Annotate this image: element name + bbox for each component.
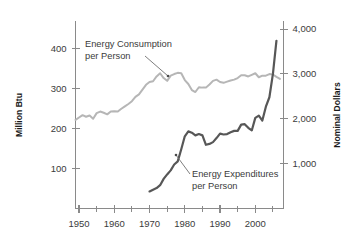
right-tick-label: 3,000 — [293, 68, 317, 79]
consumption-label-leader-dot — [167, 75, 170, 78]
expenditures-label-leader — [176, 155, 190, 174]
expenditures-label-text: per Person — [192, 181, 237, 191]
chart-container: 100200300400 1,0002,0003,0004,000 195019… — [0, 0, 359, 241]
expenditures-label-leader-dot — [175, 154, 178, 157]
annotations-group: Energy Consumptionper PersonEnergy Expen… — [85, 39, 279, 191]
left-tick-label: 200 — [51, 123, 67, 134]
x-tick-label: 1970 — [139, 218, 160, 229]
left-tick-label: 400 — [51, 43, 67, 54]
right-axis-ticks: 1,0002,0003,0004,000 — [280, 23, 317, 169]
consumption-label-text: per Person — [85, 51, 130, 61]
left-axis-title: Million Btu — [14, 93, 24, 137]
right-tick-label: 4,000 — [293, 23, 317, 34]
left-tick-label: 300 — [51, 83, 67, 94]
x-tick-label: 1950 — [68, 218, 89, 229]
x-tick-label: 2000 — [245, 218, 266, 229]
left-tick-label: 100 — [51, 163, 67, 174]
consumption-label-text: Energy Consumption — [85, 39, 172, 49]
expenditures-label-text: Energy Expenditures — [192, 169, 279, 179]
right-axis-title: Nominal Dollars — [332, 82, 342, 148]
x-tick-label: 1980 — [174, 218, 195, 229]
right-tick-label: 1,000 — [293, 158, 317, 169]
energy-chart: 100200300400 1,0002,0003,0004,000 195019… — [0, 0, 359, 241]
x-tick-label: 1960 — [104, 218, 125, 229]
series-line-consumption — [76, 73, 280, 120]
right-tick-label: 2,000 — [293, 113, 317, 124]
x-tick-label: 1990 — [209, 218, 230, 229]
consumption-label-leader — [145, 56, 168, 76]
